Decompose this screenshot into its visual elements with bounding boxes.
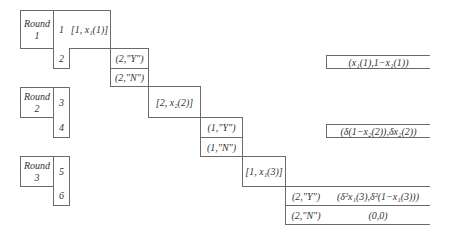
round-1-label-word: Round — [24, 18, 50, 30]
round-3-response-no: (2,"N") — [285, 205, 327, 225]
round-1-label-number: 1 — [35, 30, 40, 42]
round-2-label-number: 2 — [35, 103, 40, 115]
round-1-payoff: (x₁(1),1−x₁(1)) — [326, 55, 430, 69]
round-2-response-yes: (1,"Y") — [200, 117, 243, 138]
step-3: 3 — [53, 87, 70, 118]
round-1-label: Round 1 — [20, 10, 54, 49]
round-1-response-yes: (2,"Y") — [110, 48, 149, 69]
round-2-payoff: (δ(1−x₂(2)),δx₂(2)) — [326, 124, 430, 138]
round-3-label-word: Round — [24, 160, 50, 172]
round-3-offer: [1, x₁(3)] — [242, 156, 286, 187]
step-2: 2 — [53, 48, 70, 69]
step-1: 1 — [53, 10, 70, 49]
round-2-label-word: Round — [24, 91, 50, 103]
step-4: 4 — [53, 117, 70, 138]
step-5: 5 — [53, 156, 70, 187]
round-1-offer: [1, x₁(1)] — [69, 10, 111, 49]
step-6: 6 — [53, 186, 70, 206]
round-3-label: Round 3 — [20, 156, 54, 187]
round-3-payoff-accept: (δ²x₁(3),δ²(1−x₁(3))) — [326, 186, 430, 206]
round-1-response-no: (2,"N") — [110, 68, 149, 87]
round-3-label-number: 3 — [35, 172, 40, 184]
round-2-label: Round 2 — [20, 87, 54, 118]
round-2-offer: [2, x₂(2)] — [148, 86, 201, 118]
round-2-response-no: (1,"N") — [200, 137, 243, 157]
round-3-response-yes: (2,"Y") — [285, 186, 327, 206]
round-3-payoff-reject: (0,0) — [326, 205, 430, 225]
